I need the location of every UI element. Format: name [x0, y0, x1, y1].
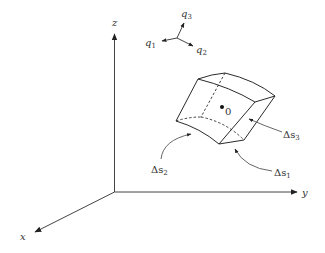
q1-label: q1 — [145, 37, 156, 50]
cartesian-axes: z y x — [20, 17, 308, 242]
curvilinear-frame: q1 q2 q3 — [145, 8, 207, 57]
element-hidden-bottom-back-edge — [201, 117, 244, 140]
element-right-edge — [244, 96, 275, 140]
ds1-pointer-arrow — [235, 149, 272, 171]
ds1-label: Δs1 — [274, 167, 291, 180]
element-top-right-edge — [225, 73, 275, 96]
element-hidden-vertical-edge — [201, 73, 225, 117]
x-axis-label: x — [20, 231, 26, 242]
ds2-label: Δs2 — [151, 164, 168, 177]
q2-label: q2 — [196, 44, 207, 57]
volume-element: 0 — [176, 73, 275, 144]
volume-element-diagram: z y x q1 q2 q3 0 Δs2 Δs3 — [0, 0, 325, 253]
element-center-point — [220, 105, 224, 109]
ds-annotations: Δs2 Δs3 Δs1 — [151, 119, 300, 180]
z-axis-label: z — [111, 17, 118, 28]
element-bottom-front-edge — [176, 121, 219, 144]
x-axis — [35, 192, 115, 232]
element-top-back-edge — [198, 73, 225, 79]
q1-arrow — [162, 38, 177, 41]
q2-arrow — [177, 38, 193, 46]
element-left-vertical-edge — [176, 79, 198, 121]
element-center-label: 0 — [225, 106, 231, 117]
element-top-front-edge — [198, 79, 255, 102]
y-axis-label: y — [301, 187, 308, 198]
q3-label: q3 — [181, 8, 192, 21]
q3-arrow — [177, 23, 184, 38]
ds3-label: Δs3 — [283, 129, 300, 142]
element-bottom-right-edge — [219, 140, 244, 144]
ds2-pointer-arrow — [161, 134, 191, 159]
element-hidden-bottom-left-edge — [176, 117, 201, 121]
